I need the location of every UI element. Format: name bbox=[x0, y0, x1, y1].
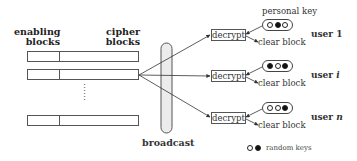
user-name: user bbox=[311, 112, 333, 122]
decrypt-box-user-n: decrypt bbox=[211, 112, 246, 124]
key-bit-filled-icon bbox=[282, 63, 288, 69]
decrypt-box-user-1: decrypt bbox=[211, 29, 246, 41]
key-bit-filled-icon bbox=[275, 22, 281, 28]
key-bit-filled-icon bbox=[282, 105, 288, 111]
broadcast-label: broadcast bbox=[142, 137, 194, 148]
header-line: blocks bbox=[100, 37, 140, 47]
personal-key-user-i bbox=[262, 60, 293, 72]
user-index: 1 bbox=[336, 29, 342, 39]
key-bit-filled-icon bbox=[267, 63, 273, 69]
block-divider bbox=[59, 70, 60, 79]
user-name: user bbox=[311, 29, 333, 39]
key-bit-empty-icon bbox=[267, 22, 273, 28]
block-divider bbox=[59, 52, 60, 61]
key-bit-empty-icon bbox=[275, 63, 281, 69]
clear-block-label-user-1: clear block bbox=[258, 37, 306, 47]
key-bit-empty-icon bbox=[267, 105, 273, 111]
clear-block-label-user-n: clear block bbox=[258, 120, 306, 130]
block-divider bbox=[59, 116, 60, 125]
legend-label: random keys bbox=[266, 144, 312, 152]
enabling-blocks-header: enabling blocks bbox=[14, 27, 60, 47]
header-line: blocks bbox=[14, 37, 60, 47]
block-row-n bbox=[27, 115, 139, 126]
key-bit-empty-icon bbox=[282, 22, 288, 28]
key-bit-empty-icon bbox=[275, 105, 281, 111]
block-row-2 bbox=[27, 69, 139, 80]
cipher-blocks-header: cipher blocks bbox=[100, 27, 140, 47]
personal-key-user-n bbox=[262, 102, 293, 114]
user-name: user bbox=[311, 70, 333, 80]
clear-block-label-user-i: clear block bbox=[258, 78, 306, 88]
ellipsis-dots: ⋮ bbox=[80, 93, 89, 102]
user-index: i bbox=[336, 70, 339, 80]
legend-filled-key-icon bbox=[255, 145, 261, 151]
user-index: n bbox=[336, 112, 343, 122]
legend: random keys bbox=[247, 144, 312, 152]
user-i-label: user i bbox=[311, 70, 340, 80]
user-1-label: user 1 bbox=[311, 29, 342, 39]
decrypt-box-user-i: decrypt bbox=[211, 70, 246, 82]
personal-key-user-1 bbox=[262, 19, 293, 31]
legend-empty-key-icon bbox=[247, 145, 253, 151]
block-row-1 bbox=[27, 51, 139, 62]
user-n-label: user n bbox=[311, 112, 343, 122]
personal-key-label: personal key bbox=[262, 6, 317, 16]
broadcast-channel bbox=[161, 43, 172, 133]
